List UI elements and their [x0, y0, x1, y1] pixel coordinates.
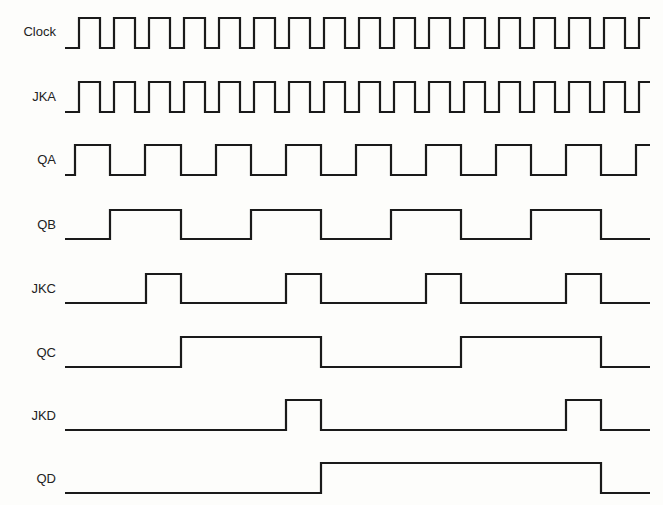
timing-waveforms: [0, 0, 663, 505]
signal-label-jkd: JKD: [4, 408, 56, 423]
waveform-qa: [65, 145, 650, 175]
waveform-clock: [65, 18, 650, 48]
waveform-jkd: [65, 400, 650, 430]
signal-label-qb: QB: [4, 217, 56, 232]
signal-label-clock: Clock: [4, 24, 56, 39]
signal-label-qa: QA: [4, 152, 56, 167]
waveform-qc: [65, 337, 650, 367]
waveform-jka: [65, 82, 650, 112]
signal-label-qc: QC: [4, 345, 56, 360]
signal-label-qd: QD: [4, 471, 56, 486]
waveform-jkc: [65, 274, 650, 303]
signal-label-jka: JKA: [4, 89, 56, 104]
waveform-qd: [65, 463, 650, 493]
waveform-qb: [65, 210, 650, 239]
signal-label-jkc: JKC: [4, 281, 56, 296]
